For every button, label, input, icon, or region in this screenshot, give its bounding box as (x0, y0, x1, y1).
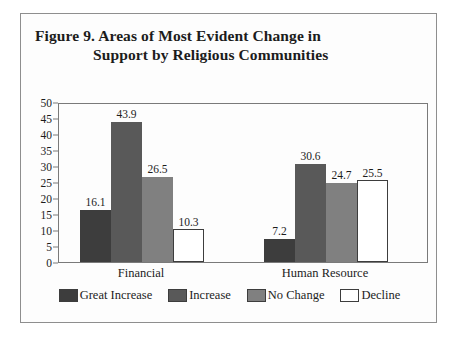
bar-value-label: 16.1 (85, 196, 105, 208)
y-axis-tick-label: 10 (41, 225, 53, 237)
bar-increase-human-resource: 30.6 (295, 164, 326, 262)
figure-title-line-1: Figure 9. Areas of Most Evident Change i… (35, 27, 321, 44)
bar-value-label: 30.6 (300, 150, 320, 162)
bar-value-label: 26.5 (147, 163, 167, 175)
bar-no-change-human-resource: 24.7 (326, 183, 357, 262)
x-axis-category-label: Human Resource (282, 266, 368, 281)
figure-title-line-2: Support by Religious Communities (35, 45, 425, 64)
bar-value-label: 43.9 (116, 108, 136, 120)
chart-legend: Great IncreaseIncreaseNo ChangeDecline (21, 288, 438, 303)
legend-swatch (168, 289, 187, 302)
bar-value-label: 7.2 (272, 225, 286, 237)
x-axis-category-label: Financial (118, 266, 165, 281)
bar-increase-financial: 43.9 (111, 122, 142, 262)
bar-value-label: 10.3 (178, 216, 198, 228)
legend-item-decline: Decline (340, 288, 400, 303)
bar-decline-financial: 10.3 (173, 229, 204, 262)
bar-value-label: 24.7 (331, 169, 351, 181)
legend-item-great-increase: Great Increase (59, 288, 153, 303)
legend-item-no-change: No Change (247, 288, 325, 303)
bar-decline-human-resource: 25.5 (357, 180, 388, 262)
legend-swatch (340, 289, 359, 302)
y-axis: 05101520253035404550 (21, 103, 58, 263)
y-axis-tick-label: 5 (46, 241, 52, 253)
legend-item-increase: Increase (168, 288, 231, 303)
y-axis-tick-label: 50 (41, 97, 53, 109)
y-axis-tick-label: 20 (41, 193, 53, 205)
plot-area: 16.143.926.510.37.230.624.725.5 (58, 103, 428, 263)
figure-frame: Figure 9. Areas of Most Evident Change i… (20, 13, 437, 323)
y-axis-tick-label: 15 (41, 209, 53, 221)
figure-title: Figure 9. Areas of Most Evident Change i… (35, 26, 425, 64)
y-axis-tick-label: 35 (41, 145, 53, 157)
legend-swatch (247, 289, 266, 302)
bar-value-label: 25.5 (362, 167, 382, 179)
bar-great-increase-financial: 16.1 (80, 210, 111, 262)
legend-label: Great Increase (80, 288, 153, 303)
y-axis-tick-label: 30 (41, 161, 53, 173)
y-axis-tick-label: 0 (46, 257, 52, 269)
legend-swatch (59, 289, 78, 302)
y-axis-tick-label: 40 (41, 129, 53, 141)
legend-label: Decline (361, 288, 400, 303)
y-axis-tick-label: 45 (41, 113, 53, 125)
bar-no-change-financial: 26.5 (142, 177, 173, 262)
y-axis-tick-label: 25 (41, 177, 53, 189)
legend-label: Increase (189, 288, 231, 303)
bar-great-increase-human-resource: 7.2 (264, 239, 295, 262)
legend-label: No Change (268, 288, 325, 303)
